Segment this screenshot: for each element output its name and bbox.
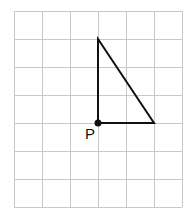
point-p-label: P <box>85 125 95 142</box>
grid-diagram: P <box>0 0 191 214</box>
point-p-marker <box>95 120 102 127</box>
